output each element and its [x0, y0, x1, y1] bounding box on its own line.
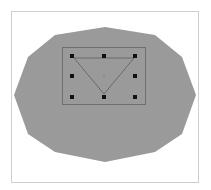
- resize-handle[interactable]: [133, 54, 137, 58]
- resize-handle[interactable]: [102, 54, 106, 58]
- resize-handle[interactable]: [133, 95, 137, 99]
- resize-handle[interactable]: [102, 95, 106, 99]
- resize-handle[interactable]: [70, 54, 74, 58]
- resize-handle[interactable]: [133, 74, 137, 78]
- drawing-canvas[interactable]: [0, 0, 211, 190]
- resize-handle[interactable]: [70, 95, 74, 99]
- resize-handle[interactable]: [70, 74, 74, 78]
